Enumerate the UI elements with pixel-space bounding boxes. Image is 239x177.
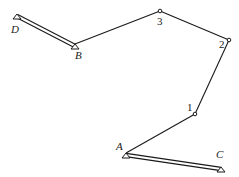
member-DB xyxy=(16,15,75,48)
truss-diagram: DBAC123 xyxy=(0,0,239,177)
member-1A xyxy=(126,114,195,153)
joint-1 xyxy=(193,112,197,116)
node-label-2: 2 xyxy=(219,38,225,50)
member-32 xyxy=(160,11,229,40)
member-21 xyxy=(195,40,229,114)
support-label-D: D xyxy=(10,23,19,35)
node-label-3: 3 xyxy=(157,15,163,27)
support-C-triangle-icon xyxy=(217,167,225,172)
node-label-1: 1 xyxy=(187,101,193,113)
support-label-C: C xyxy=(216,148,224,160)
support-D-triangle-icon xyxy=(13,14,21,19)
labels: DBAC123 xyxy=(10,15,225,160)
support-label-B: B xyxy=(75,49,82,61)
member-B3 xyxy=(75,11,160,44)
support-label-A: A xyxy=(115,140,123,152)
member-AC xyxy=(126,153,221,170)
joint-3 xyxy=(158,9,162,13)
joint-2 xyxy=(227,38,231,42)
